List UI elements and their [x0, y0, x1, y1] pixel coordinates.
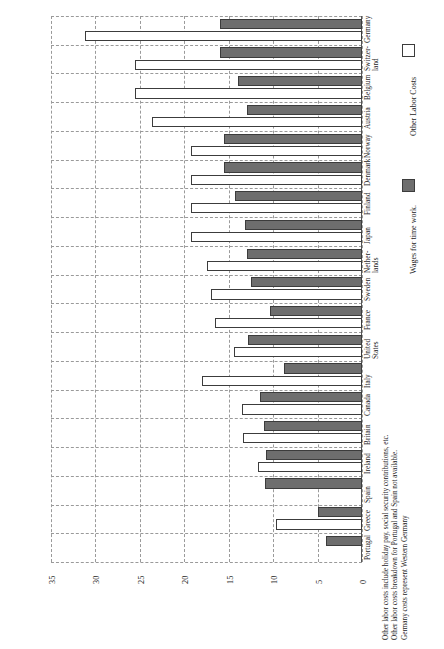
bar-group	[51, 533, 362, 562]
category-label-text: Portugal	[364, 516, 372, 560]
bar-group	[51, 131, 362, 160]
bar-wages-for-time-work	[251, 277, 362, 287]
bar-wages-for-time-work	[224, 134, 362, 144]
gridline-horizontal	[51, 562, 362, 563]
bar-group	[51, 505, 362, 534]
bar-other-labor-costs	[191, 175, 362, 185]
bar-group	[51, 102, 362, 131]
bar-group	[51, 45, 362, 74]
bar-group	[51, 361, 362, 390]
bar-group	[51, 16, 362, 45]
bar-other-labor-costs	[258, 462, 362, 472]
legend-swatch-dark	[402, 179, 415, 192]
chart-footnote: Other labor costs include holiday pay, s…	[382, 425, 410, 640]
bar-other-labor-costs	[243, 433, 362, 443]
footnote-line-3: Germany costs represent Western Germany	[401, 425, 410, 640]
bar-group	[51, 418, 362, 447]
bar-other-labor-costs	[211, 289, 362, 299]
tick-label-text: 10	[270, 576, 279, 584]
bar-group	[51, 447, 362, 476]
bar-other-labor-costs	[85, 31, 362, 41]
bar-wages-for-time-work	[284, 363, 362, 373]
tick-label-text: 20	[181, 576, 190, 584]
bar-group	[51, 160, 362, 189]
bar-wages-for-time-work	[245, 220, 362, 230]
bar-wages-for-time-work	[224, 162, 362, 172]
bar-wages-for-time-work	[220, 19, 362, 29]
bar-group	[51, 217, 362, 246]
tick-label-text: 0	[359, 580, 368, 584]
tick-label-text: 35	[48, 576, 57, 584]
legend-label-wages-for-time-work: Wages for time work.	[409, 205, 418, 274]
bar-group	[51, 390, 362, 419]
bar-other-labor-costs	[191, 146, 362, 156]
bar-group	[51, 476, 362, 505]
tick-label-text: 25	[137, 576, 146, 584]
bar-other-labor-costs	[135, 88, 362, 98]
tick-label-text: 30	[92, 576, 101, 584]
bar-other-labor-costs	[152, 117, 362, 127]
bar-other-labor-costs	[135, 60, 362, 70]
bar-group	[51, 275, 362, 304]
bar-wages-for-time-work	[266, 450, 362, 460]
tick-label-text: 5	[315, 580, 324, 584]
bar-other-labor-costs	[234, 347, 362, 357]
bar-wages-for-time-work	[238, 76, 362, 86]
bar-wages-for-time-work	[318, 507, 362, 517]
bar-wages-for-time-work	[247, 249, 363, 259]
bar-wages-for-time-work	[247, 105, 363, 115]
bar-other-labor-costs	[215, 318, 363, 328]
bar-other-labor-costs	[191, 232, 362, 242]
bar-wages-for-time-work	[265, 478, 362, 488]
bar-other-labor-costs	[191, 203, 362, 213]
bar-wages-for-time-work	[248, 335, 362, 345]
footnote-line-2: Other labor costs breakdown for Portugal…	[391, 425, 400, 640]
legend-label-other-labor-costs: Other Labor Costs	[409, 77, 418, 136]
bar-other-labor-costs	[242, 404, 362, 414]
gridline-vertical	[362, 16, 363, 562]
chart-plot-area	[51, 16, 362, 562]
bar-group	[51, 73, 362, 102]
bar-wages-for-time-work	[220, 47, 362, 57]
tick-label-text: 15	[226, 576, 235, 584]
bar-group	[51, 188, 362, 217]
bar-wages-for-time-work	[260, 392, 362, 402]
bar-group	[51, 303, 362, 332]
footnote-line-1: Other labor costs include holiday pay, s…	[382, 425, 391, 640]
bar-other-labor-costs	[276, 519, 362, 529]
bar-wages-for-time-work	[264, 421, 362, 431]
bar-wages-for-time-work	[326, 536, 362, 546]
bar-other-labor-costs	[202, 376, 362, 386]
bar-group	[51, 332, 362, 361]
bar-group	[51, 246, 362, 275]
bar-other-labor-costs	[207, 261, 363, 271]
bar-wages-for-time-work	[270, 306, 362, 316]
legend-swatch-light	[402, 44, 415, 57]
bar-wages-for-time-work	[235, 191, 362, 201]
chart-legend: Other Labor Costs Wages for time work.	[392, 44, 444, 274]
